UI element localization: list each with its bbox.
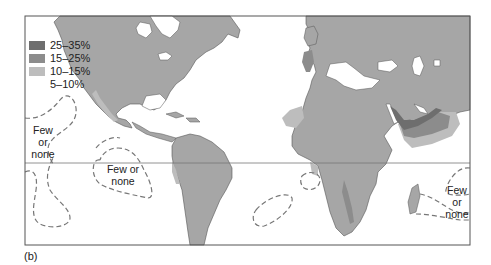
annotation-line: none bbox=[100, 175, 146, 187]
panel-label: (b) bbox=[24, 250, 37, 262]
legend-swatch-10-15 bbox=[29, 67, 45, 76]
legend-item-5-10: 5–10% bbox=[29, 78, 90, 91]
annotation-few-or-none-pacific: Few or none bbox=[100, 163, 146, 187]
legend-swatch-5-10 bbox=[29, 80, 45, 89]
legend-swatch-25-35 bbox=[29, 41, 45, 50]
annotation-line: Few bbox=[442, 184, 472, 196]
legend-item-10-15: 10–15% bbox=[29, 65, 90, 78]
legend-item-25-35: 25–35% bbox=[29, 39, 90, 52]
legend-label: 5–10% bbox=[50, 78, 84, 91]
annotation-line: none bbox=[442, 208, 472, 220]
annotation-line: Few bbox=[28, 124, 58, 136]
aral-sea bbox=[434, 60, 440, 66]
legend-label: 10–15% bbox=[50, 65, 90, 78]
annotation-line: or bbox=[28, 136, 58, 148]
legend-swatch-15-25 bbox=[29, 54, 45, 63]
annotation-few-or-none-east: Few or none bbox=[442, 184, 472, 220]
annotation-line: none bbox=[28, 148, 58, 160]
annotation-line: or bbox=[442, 196, 472, 208]
legend: 25–35% 15–25% 10–15% 5–10% bbox=[29, 39, 90, 91]
legend-label: 25–35% bbox=[50, 39, 90, 52]
annotation-line: Few or bbox=[100, 163, 146, 175]
legend-label: 15–25% bbox=[50, 52, 90, 65]
annotation-few-or-none-west: Few or none bbox=[28, 124, 58, 160]
legend-item-15-25: 15–25% bbox=[29, 52, 90, 65]
